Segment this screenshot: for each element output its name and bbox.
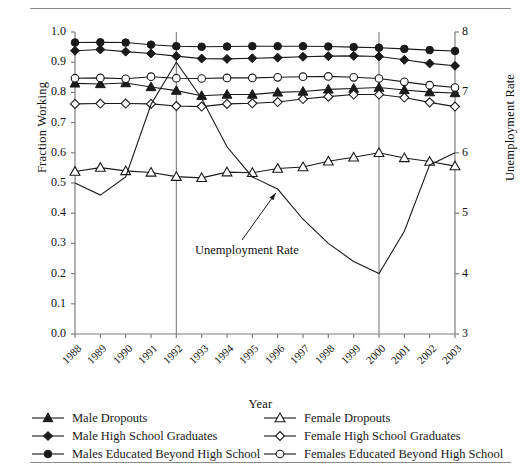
- series-females-educated-beyond-high-school: [71, 73, 459, 92]
- annotation-unemployment-rate: Unemployment Rate: [195, 243, 299, 258]
- y-tick-left: 0.4: [30, 205, 66, 220]
- y-tick-left: 0.2: [30, 266, 66, 281]
- legend-label: Females Educated Beyond High School: [304, 447, 503, 461]
- legend-marker-open-triangle-icon: [262, 411, 298, 425]
- y-tick-left: 0.5: [30, 175, 66, 190]
- series-female-dropouts: [70, 148, 460, 182]
- y-tick-left: 0.8: [30, 84, 66, 99]
- y-tick-left: 0.3: [30, 235, 66, 250]
- figure: Fraction Working Unemployment Rate Year …: [0, 0, 521, 472]
- legend-label: Female High School Graduates: [304, 429, 461, 443]
- legend-label: Male Dropouts: [72, 411, 147, 425]
- y-tick-left: 0.9: [30, 54, 66, 69]
- y-tick-right: 6: [462, 145, 486, 160]
- legend-item: Female Dropouts: [262, 409, 500, 427]
- legend-label: Male High School Graduates: [72, 429, 217, 443]
- y-tick-right: 3: [462, 326, 486, 341]
- y-tick-right: 5: [462, 205, 486, 220]
- legend-item: Females Educated Beyond High School: [262, 445, 500, 463]
- legend-marker-open-circle-icon: [262, 447, 298, 461]
- legend-marker-open-diamond-icon: [262, 429, 298, 443]
- legend-marker-filled-diamond-icon: [30, 429, 66, 443]
- legend-item: Male Dropouts: [30, 409, 262, 427]
- legend-item: Male High School Graduates: [30, 427, 262, 445]
- y-tick-right: 8: [462, 24, 486, 39]
- y-tick-left: 1.0: [30, 24, 66, 39]
- legend-marker-filled-circle-icon: [30, 447, 66, 461]
- annotation-arrow: [242, 193, 276, 240]
- y-tick-right: 4: [462, 266, 486, 281]
- chart-legend: Male DropoutsFemale DropoutsMale High Sc…: [30, 409, 500, 463]
- legend-item: Female High School Graduates: [262, 427, 500, 445]
- y-tick-left: 0.7: [30, 115, 66, 130]
- legend-label: Males Educated Beyond High School: [72, 447, 260, 461]
- legend-marker-filled-triangle-icon: [30, 411, 66, 425]
- y-tick-right: 7: [462, 84, 486, 99]
- y-axis-label-right: Unemployment Rate: [503, 48, 518, 208]
- y-tick-left: 0.6: [30, 145, 66, 160]
- legend-label: Female Dropouts: [304, 411, 390, 425]
- y-tick-left: 0.0: [30, 326, 66, 341]
- legend-item: Males Educated Beyond High School: [30, 445, 262, 463]
- y-tick-left: 0.1: [30, 296, 66, 311]
